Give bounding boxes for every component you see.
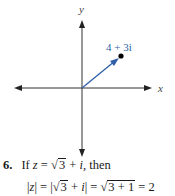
y-axis-up-arrow-icon [79, 20, 85, 28]
complex-plane-figure: y x 4 + 3i [0, 0, 175, 160]
plus: + [66, 158, 79, 172]
abs-equals: | = [85, 180, 101, 194]
x-axis-label: x [157, 82, 163, 94]
x-axis-right-arrow-icon [144, 85, 152, 91]
text-then: , then [83, 158, 111, 172]
result: = 2 [135, 180, 155, 194]
equals: = [38, 158, 51, 172]
radicand: 3 [58, 158, 66, 171]
equals-abs: = | [37, 180, 53, 194]
text-if: If [21, 158, 32, 172]
y-axis-label: y [78, 3, 84, 15]
plus: + [68, 180, 81, 194]
y-axis-down-arrow-icon [79, 149, 85, 157]
sqrt-icon: √ [100, 180, 107, 194]
x-axis-left-arrow-icon [14, 85, 22, 91]
radicand-sum: 3 + 1 [107, 180, 135, 193]
point-marker [118, 53, 123, 58]
radicand: 3 [60, 180, 68, 193]
problem-line-1: 6.If z = √3 + i, then [3, 158, 111, 173]
vector-line [82, 61, 115, 88]
point-label: 4 + 3i [106, 41, 132, 53]
problem-number: 6. [3, 158, 12, 172]
sqrt-icon: √ [53, 180, 60, 194]
problem-line-2: |z| = |√3 + i| = √3 + 1 = 2 [27, 180, 155, 195]
sqrt-icon: √ [51, 158, 58, 172]
